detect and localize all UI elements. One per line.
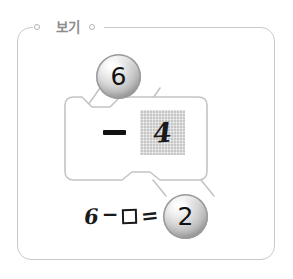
legend-left-circle-icon <box>34 24 40 30</box>
example-label: 보기 <box>44 18 92 37</box>
minus-operator-icon <box>103 130 126 135</box>
equation-minus-icon: − <box>102 204 119 224</box>
badge-difference-value: 2 <box>178 204 194 229</box>
equation-blank-square-icon <box>122 208 137 223</box>
subtrahend-tile: 4 <box>140 110 185 155</box>
badge-minuend-value: 6 <box>111 64 127 89</box>
operation-box <box>56 95 216 183</box>
worksheet-figure: 보기 4 6 2 6 − = <box>0 0 293 279</box>
badge-difference: 2 <box>163 194 208 239</box>
equation-first-number: 6 <box>83 205 99 227</box>
subtrahend-value: 4 <box>138 108 186 156</box>
equation-equals-sign: = <box>140 204 159 227</box>
badge-minuend: 6 <box>96 54 141 99</box>
equation-row: 6 − = <box>84 200 158 232</box>
